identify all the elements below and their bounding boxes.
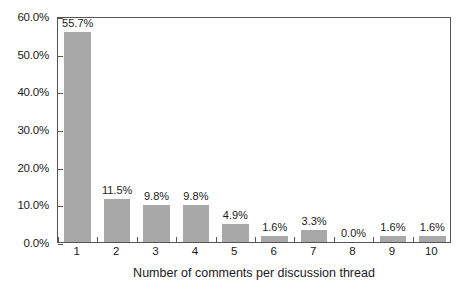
plot-area: 55.7%11.5%9.8%9.8%4.9%1.6%3.3%0.0%1.6%1.… — [57, 17, 451, 243]
x-axis-tick-label: 10 — [425, 245, 438, 257]
bar-value-label: 0.0% — [341, 227, 366, 239]
x-axis-tick — [413, 237, 414, 242]
x-axis-tick-label: 4 — [192, 245, 198, 257]
x-axis-tick-label: 8 — [349, 245, 355, 257]
bar-value-label: 3.3% — [302, 215, 327, 227]
x-axis-tick-label: 9 — [389, 245, 395, 257]
x-axis-title: Number of comments per discussion thread — [57, 266, 451, 280]
x-axis-tick — [137, 237, 138, 242]
y-axis-tick — [58, 206, 63, 207]
y-axis-tick-label: 50.0% — [17, 49, 49, 61]
bar — [143, 205, 170, 242]
y-axis-tick — [58, 169, 63, 170]
x-axis-tick — [334, 237, 335, 242]
x-axis-tick-label: 3 — [152, 245, 158, 257]
bar-value-label: 55.7% — [62, 17, 93, 29]
y-axis-tick-label: 0.0% — [24, 237, 49, 249]
bar-chart: 0.0%10.0%20.0%30.0%40.0%50.0%60.0% 55.7%… — [0, 0, 469, 292]
x-axis-tick-label: 5 — [231, 245, 237, 257]
x-axis-tick — [97, 237, 98, 242]
x-axis-tick — [373, 237, 374, 242]
y-axis-tick-label: 40.0% — [17, 86, 49, 98]
x-axis-tick — [255, 237, 256, 242]
x-axis-tick — [58, 237, 59, 242]
bar-value-label: 11.5% — [102, 184, 132, 196]
x-axis-tick-label: 6 — [270, 245, 276, 257]
y-axis-tick-label: 10.0% — [17, 199, 49, 211]
bar — [104, 199, 131, 242]
x-axis-tick — [294, 237, 295, 242]
y-axis-tick-label: 30.0% — [17, 124, 49, 136]
y-axis-labels: 0.0%10.0%20.0%30.0%40.0%50.0%60.0% — [0, 0, 53, 292]
x-axis-tick — [176, 237, 177, 242]
bar — [64, 32, 91, 242]
bar — [419, 236, 446, 242]
x-axis-tick-label: 1 — [73, 245, 79, 257]
bar — [261, 236, 288, 242]
bar-value-label: 4.9% — [223, 209, 248, 221]
x-axis-labels: 12345678910 — [57, 245, 451, 263]
x-axis-tick — [216, 237, 217, 242]
bar — [183, 205, 210, 242]
bar-value-label: 9.8% — [144, 190, 169, 202]
y-axis-tick — [58, 56, 63, 57]
bar — [222, 224, 249, 242]
y-axis-tick-label: 60.0% — [17, 11, 49, 23]
bar — [301, 230, 328, 242]
y-axis-tick — [58, 131, 63, 132]
bar-value-label: 9.8% — [183, 190, 208, 202]
y-axis-tick — [58, 93, 63, 94]
bar-value-label: 1.6% — [262, 221, 287, 233]
x-axis-tick-label: 2 — [113, 245, 119, 257]
y-axis-tick-label: 20.0% — [17, 162, 49, 174]
x-axis-tick-label: 7 — [310, 245, 316, 257]
bar — [380, 236, 407, 242]
bar-value-label: 1.6% — [420, 221, 445, 233]
bar-value-label: 1.6% — [380, 221, 405, 233]
